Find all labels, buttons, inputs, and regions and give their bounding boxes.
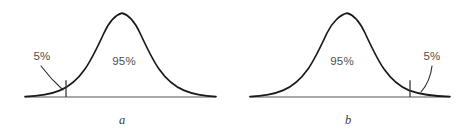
normal-distribution-figure: 5% 95% a 95% 5% b: [0, 0, 466, 136]
panel-a-tail-percent-label: 5%: [33, 50, 50, 62]
panel-b-main-percent-label: 95%: [330, 55, 354, 67]
panel-a-tail-leader-line: [41, 66, 63, 90]
panel-a-caption: a: [119, 113, 125, 127]
panel-a: 5% 95% a: [25, 13, 216, 127]
panel-b-caption: b: [345, 113, 351, 127]
panel-a-main-percent-label: 95%: [112, 55, 136, 67]
panel-b-tail-percent-label: 5%: [423, 50, 440, 62]
panel-b-tail-leader-line: [421, 66, 432, 92]
panel-b: 95% 5% b: [250, 13, 450, 127]
figure-canvas: 5% 95% a 95% 5% b: [0, 0, 466, 136]
